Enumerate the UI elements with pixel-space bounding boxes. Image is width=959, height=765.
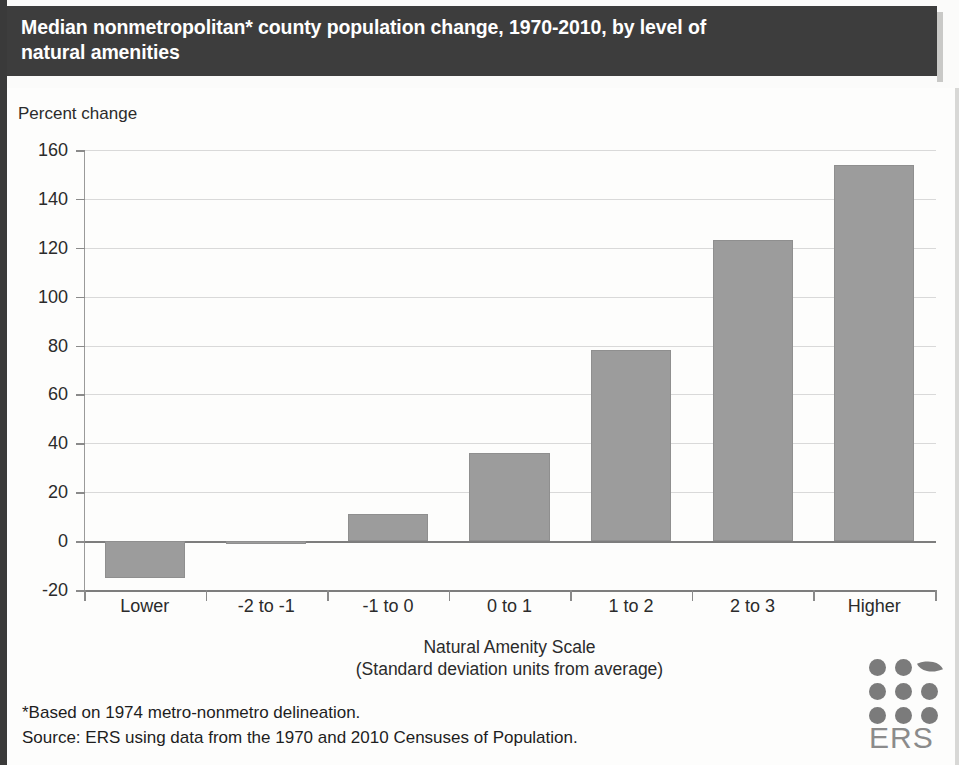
chart-title-line-1: Median nonmetropolitan* county populatio… <box>21 15 921 40</box>
x-axis-tick-mark <box>935 590 937 601</box>
logo-dot <box>895 683 912 700</box>
ers-logo: ERS <box>869 659 947 759</box>
ers-logo-text: ERS <box>869 721 947 755</box>
banner-shadow <box>937 12 943 82</box>
logo-dot <box>869 683 886 700</box>
x-axis-category-label: 0 to 1 <box>449 596 571 617</box>
gridline <box>85 590 936 592</box>
bar <box>105 541 185 578</box>
bar <box>348 514 428 541</box>
chart-title-banner: Median nonmetropolitan* county populatio… <box>7 6 937 76</box>
right-border-rule <box>955 88 959 765</box>
bar <box>469 453 549 541</box>
x-axis-category-label: -1 to 0 <box>327 596 449 617</box>
y-axis-tick-label: 140 <box>12 190 68 208</box>
y-axis-tick-label: 100 <box>12 288 68 306</box>
x-axis-title: Natural Amenity Scale (Standard deviatio… <box>84 636 935 680</box>
y-axis-title: Percent change <box>18 104 137 124</box>
y-axis-tick-label: 40 <box>12 434 68 452</box>
y-axis-tick-label: 60 <box>12 385 68 403</box>
logo-dot <box>895 659 912 676</box>
y-axis-tick-label: 120 <box>12 239 68 257</box>
bar <box>834 165 914 541</box>
bars-layer <box>84 150 935 590</box>
logo-dot <box>869 659 886 676</box>
footnotes: *Based on 1974 metro-nonmetro delineatio… <box>22 700 722 750</box>
left-border-rule <box>0 0 7 765</box>
y-axis-tick-label: -20 <box>12 581 68 599</box>
x-axis-category-label: Lower <box>84 596 206 617</box>
footnote-line-2: Source: ERS using data from the 1970 and… <box>22 725 722 750</box>
leaf-icon <box>917 655 943 677</box>
bar <box>226 541 306 543</box>
x-axis-category-label: 1 to 2 <box>570 596 692 617</box>
x-axis-category-label: -2 to -1 <box>206 596 328 617</box>
y-axis-tick-label: 160 <box>12 141 68 159</box>
y-axis-tick-label: 20 <box>12 483 68 501</box>
y-axis-tick-label: 80 <box>12 337 68 355</box>
bar <box>591 350 671 541</box>
bar <box>713 240 793 541</box>
chart-figure: Median nonmetropolitan* county populatio… <box>0 0 959 765</box>
x-axis-title-line-2: (Standard deviation units from average) <box>84 658 935 680</box>
y-axis-tick-label: 0 <box>12 532 68 550</box>
x-axis-category-label: 2 to 3 <box>692 596 814 617</box>
x-axis-category-label: Higher <box>813 596 935 617</box>
chart-title-line-2: natural amenities <box>21 40 921 65</box>
logo-dot <box>921 683 938 700</box>
footnote-line-1: *Based on 1974 metro-nonmetro delineatio… <box>22 700 722 725</box>
x-axis-title-line-1: Natural Amenity Scale <box>84 636 935 658</box>
